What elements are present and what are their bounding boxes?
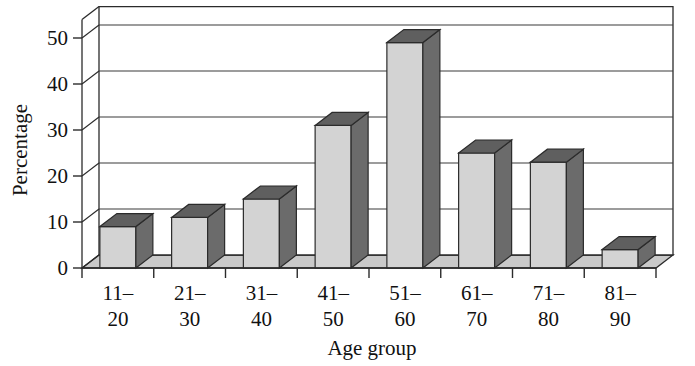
y-tick-label: 30 — [47, 118, 68, 142]
x-tick-label: 11– — [103, 281, 134, 305]
x-tick-label: 50 — [323, 307, 344, 331]
x-tick-label: 70 — [466, 307, 487, 331]
x-tick-labels: 11–2021–3031–4041–5051–6061–7071–8081–90 — [103, 281, 637, 331]
y-tick-label: 20 — [47, 164, 68, 188]
y-axis — [73, 7, 99, 268]
x-axis — [82, 268, 656, 278]
bar-column — [315, 112, 368, 268]
bar-column — [100, 214, 153, 268]
x-tick-label: 31– — [246, 281, 278, 305]
bar-column — [387, 30, 440, 268]
x-tick-label: 61– — [461, 281, 493, 305]
x-tick-label: 20 — [107, 307, 128, 331]
bar-chart: 01020304050 11–2021–3031–4041–5051–6061–… — [0, 0, 695, 366]
bar-column — [530, 149, 583, 268]
y-tick-labels: 01020304050 — [47, 26, 68, 280]
x-tick-label: 60 — [394, 307, 415, 331]
x-axis-title: Age group — [327, 336, 416, 360]
bar-column — [459, 140, 512, 268]
x-tick-label: 41– — [317, 281, 349, 305]
x-tick-label: 90 — [610, 307, 631, 331]
y-tick-label: 0 — [58, 256, 69, 280]
y-tick-label: 10 — [47, 210, 68, 234]
y-axis-title: Percentage — [8, 104, 32, 196]
x-tick-label: 30 — [179, 307, 200, 331]
x-tick-label: 21– — [174, 281, 206, 305]
y-tick-label: 40 — [47, 72, 68, 96]
x-tick-label: 71– — [533, 281, 565, 305]
x-tick-label: 81– — [604, 281, 636, 305]
chart-canvas: 01020304050 11–2021–3031–4041–5051–6061–… — [0, 0, 695, 366]
y-tick-label: 50 — [47, 26, 68, 50]
bar-column — [172, 204, 225, 268]
x-tick-label: 80 — [538, 307, 559, 331]
x-tick-label: 51– — [389, 281, 421, 305]
x-tick-label: 40 — [251, 307, 272, 331]
plot-floor — [82, 255, 673, 268]
bar-column — [243, 186, 296, 268]
